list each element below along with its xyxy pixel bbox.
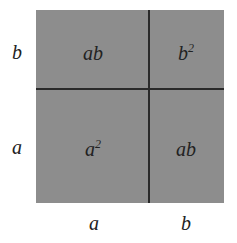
side-label-b-left: b <box>12 41 22 64</box>
cell-b-base: b <box>178 42 188 64</box>
side-label-a-left: a <box>12 136 22 159</box>
horizontal-divider <box>36 88 224 90</box>
cell-b-squared: b2 <box>178 42 194 65</box>
side-label-a-bottom: a <box>89 212 99 235</box>
vertical-divider <box>148 10 150 203</box>
square-diagram <box>36 10 224 203</box>
cell-a-base: a <box>85 138 95 160</box>
cell-ab-top-left: ab <box>83 42 103 65</box>
cell-b-exponent: 2 <box>188 41 194 55</box>
cell-a-exponent: 2 <box>95 137 101 151</box>
side-label-b-bottom: b <box>181 212 191 235</box>
cell-ab-bottom-right: ab <box>176 138 196 161</box>
cell-a-squared: a2 <box>85 138 101 161</box>
